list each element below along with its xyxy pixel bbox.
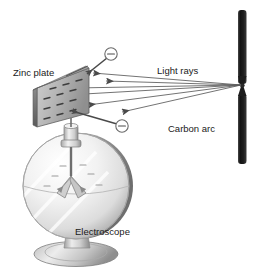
- carbon-arc-lower-tip: [238, 86, 247, 96]
- carbon-arc: [238, 10, 247, 164]
- diagram-canvas: Zinc plate Light rays Carbon arc Electro…: [0, 0, 260, 279]
- carbon-arc-lower-rod: [238, 94, 247, 164]
- electron-symbol-upper: [105, 48, 117, 60]
- light-rays-label: Light rays: [157, 65, 198, 76]
- electron-symbol-lower: [116, 120, 128, 132]
- zinc-plate-label: Zinc plate: [13, 67, 54, 78]
- electron-arrow-lower: [72, 111, 117, 124]
- electroscope-cap-collar: [61, 140, 81, 147]
- carbon-arc-label: Carbon arc: [168, 123, 215, 134]
- carbon-arc-upper-rod: [238, 10, 247, 84]
- photoelectric-effect-diagram: Zinc plate Light rays Carbon arc Electro…: [0, 0, 260, 279]
- light-rays: [67, 73, 241, 112]
- electroscope: [20, 118, 133, 267]
- electron-arrow-upper: [87, 58, 107, 74]
- electroscope-label: Electroscope: [75, 226, 130, 237]
- zinc-plate-left-edge: [33, 88, 37, 127]
